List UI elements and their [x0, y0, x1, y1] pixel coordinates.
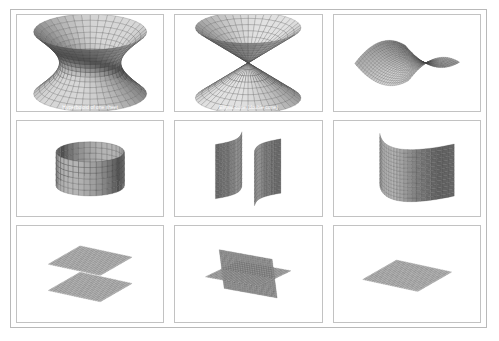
- hyperboloid-of-one-sheet-surface: [17, 15, 163, 111]
- panel-cell: Elliptic cone (double cone): [169, 10, 327, 116]
- panel-single-plane[interactable]: Single plane: [333, 225, 481, 323]
- panel-inner: [17, 15, 163, 111]
- panel-cell: Hyperboloid of one sheet: [11, 10, 169, 116]
- panel-inner: [175, 226, 321, 322]
- panel-inner: [17, 121, 163, 217]
- double-cone-surface: [175, 15, 321, 111]
- elliptic-cylinder-surface: [17, 121, 163, 217]
- panel-cell: Two intersecting planes: [169, 221, 327, 327]
- panel-inner: [175, 121, 321, 217]
- panel-parallel-planes[interactable]: Two parallel planes: [16, 225, 164, 323]
- parabolic-cylinder-surface: [334, 121, 480, 217]
- panel-parabolic-cylinder[interactable]: Parabolic cylinder: [333, 120, 481, 218]
- panel-inner: [334, 15, 480, 111]
- figure-root: Hyperboloid of one sheet Elliptic cone (…: [0, 0, 499, 341]
- panel-cell: Single plane: [328, 221, 486, 327]
- surface-grid: Hyperboloid of one sheet Elliptic cone (…: [11, 10, 486, 327]
- panel-cell: Hyperbolic cylinder (two sheets): [169, 116, 327, 222]
- panel-hyperbolic-paraboloid[interactable]: Hyperbolic paraboloid (saddle): [333, 14, 481, 112]
- panel-elliptic-cylinder[interactable]: Elliptic cylinder: [16, 120, 164, 218]
- panel-cell: Elliptic cylinder: [11, 116, 169, 222]
- hyperbolic-paraboloid-surface: [334, 15, 480, 111]
- panel-cell: Parabolic cylinder: [328, 116, 486, 222]
- panel-intersecting-planes[interactable]: Two intersecting planes: [174, 225, 322, 323]
- panel-cell: Hyperbolic paraboloid (saddle): [328, 10, 486, 116]
- panel-inner: [334, 121, 480, 217]
- panel-inner: [334, 226, 480, 322]
- panel-hyperbolic-cylinder[interactable]: Hyperbolic cylinder (two sheets): [174, 120, 322, 218]
- panel-inner: [17, 226, 163, 322]
- panel-inner: [175, 15, 321, 111]
- panel-cell: Two parallel planes: [11, 221, 169, 327]
- panel-double-cone[interactable]: Elliptic cone (double cone): [174, 14, 322, 112]
- hyperbolic-cylinder-surface: [175, 121, 321, 217]
- intersecting-planes-surface: [175, 226, 321, 322]
- panel-hyperboloid-of-one-sheet[interactable]: Hyperboloid of one sheet: [16, 14, 164, 112]
- parallel-planes-surface: [17, 226, 163, 322]
- single-plane-surface: [334, 226, 480, 322]
